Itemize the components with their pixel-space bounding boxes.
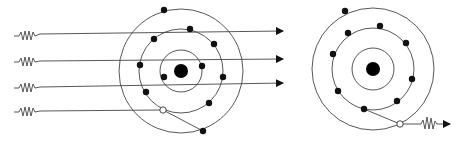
electron-transition-path xyxy=(364,109,400,124)
diagram-canvas xyxy=(0,0,466,145)
right-atom xyxy=(312,8,434,130)
right-nucleus xyxy=(366,62,380,76)
left-electron-vacancy xyxy=(160,107,166,113)
incoming-photon-1 xyxy=(14,31,283,40)
emitted-photon xyxy=(403,117,450,129)
right-electron-vacancy xyxy=(397,121,403,127)
stimulated-emission-diagram xyxy=(0,0,466,145)
incoming-photon-4 xyxy=(14,107,160,116)
left-nucleus xyxy=(174,64,188,78)
left-atom xyxy=(119,7,243,134)
